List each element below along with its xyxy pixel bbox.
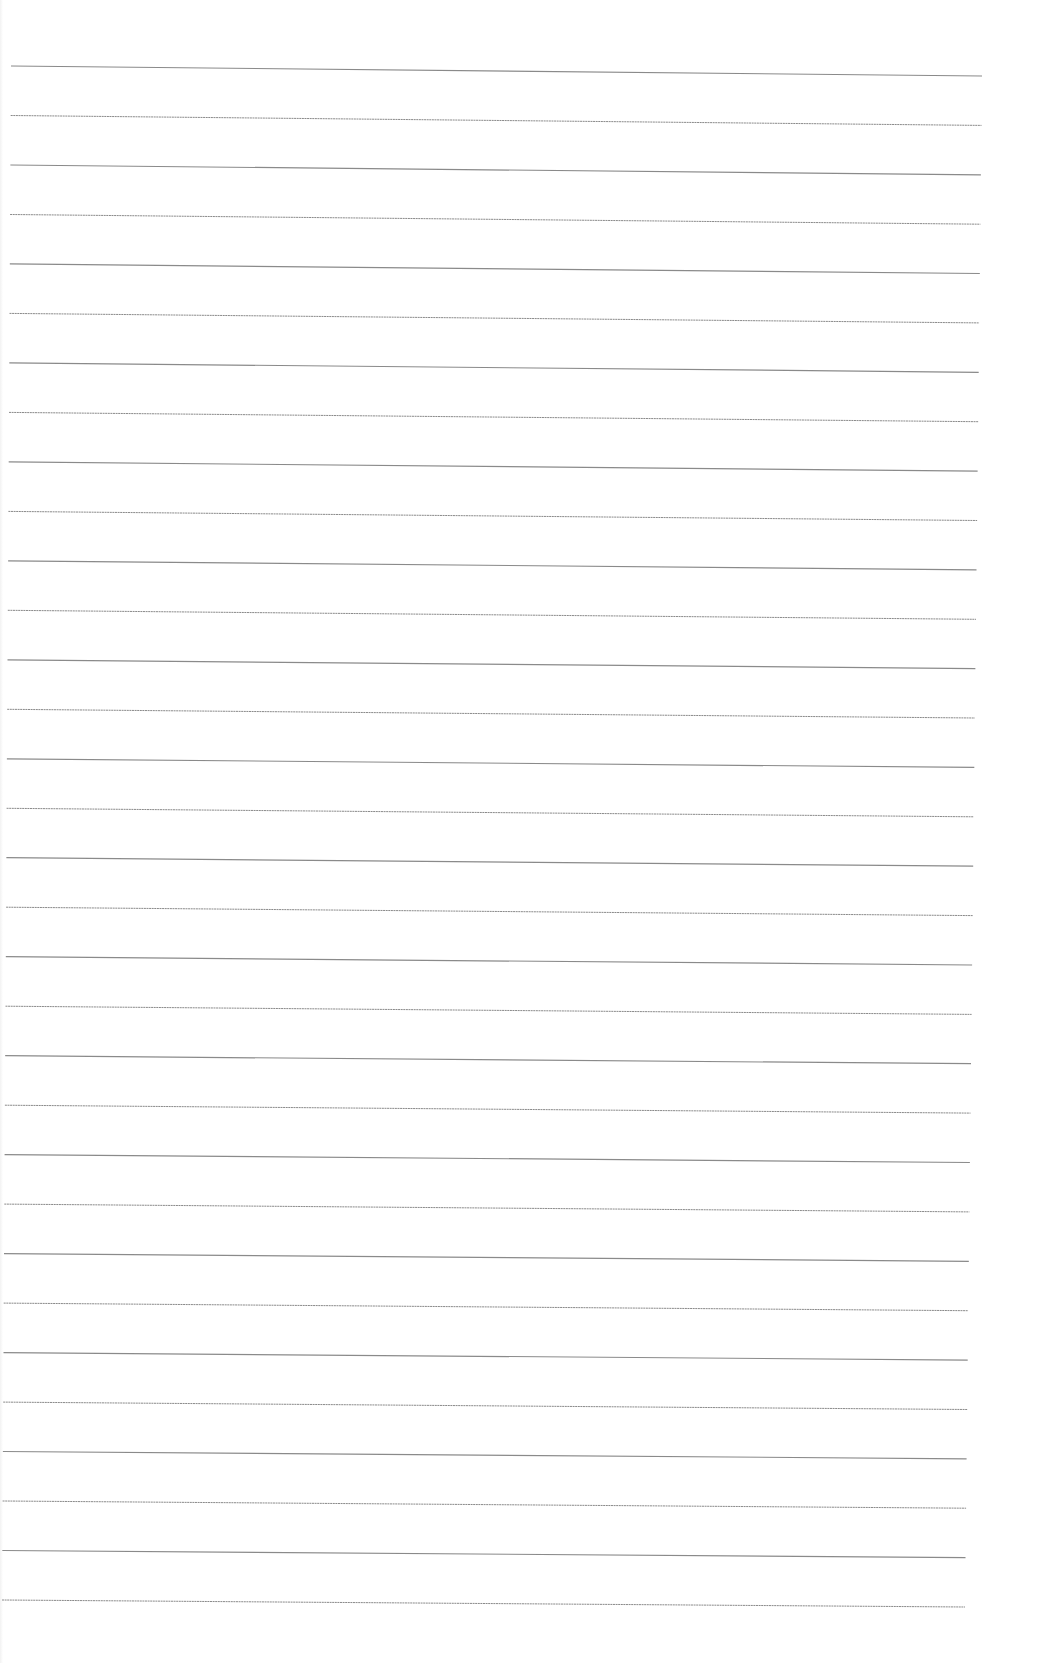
ruled-lines — [0, 0, 1054, 1663]
ruled-line — [10, 264, 980, 274]
ruled-line — [9, 363, 978, 372]
ruled-line — [7, 808, 974, 817]
ruled-paper-page — [0, 0, 1054, 1663]
ruled-line — [7, 709, 975, 718]
ruled-line — [4, 1204, 969, 1212]
ruled-line — [4, 1303, 969, 1311]
ruled-line — [4, 1254, 969, 1262]
ruled-line — [3, 1402, 967, 1409]
ruled-line — [7, 759, 974, 768]
ruled-line — [5, 1155, 970, 1163]
ruled-line — [10, 215, 980, 225]
ruled-line — [10, 165, 981, 175]
ruled-line — [8, 660, 976, 669]
ruled-line — [8, 610, 976, 619]
ruled-line — [8, 511, 977, 520]
ruled-line — [2, 1551, 965, 1558]
ruled-line — [9, 462, 978, 471]
ruled-line — [11, 66, 982, 76]
ruled-line — [6, 1006, 972, 1014]
ruled-line — [5, 1105, 971, 1113]
ruled-line — [6, 957, 972, 965]
ruled-line — [6, 907, 973, 915]
ruled-line — [9, 412, 978, 421]
ruled-line — [11, 116, 982, 126]
ruled-line — [8, 561, 976, 570]
ruled-line — [3, 1501, 967, 1508]
ruled-line — [6, 858, 973, 867]
ruled-line — [3, 1452, 967, 1459]
ruled-line — [10, 313, 980, 323]
ruled-line — [2, 1600, 965, 1607]
ruled-line — [5, 1056, 971, 1064]
ruled-line — [4, 1353, 968, 1361]
